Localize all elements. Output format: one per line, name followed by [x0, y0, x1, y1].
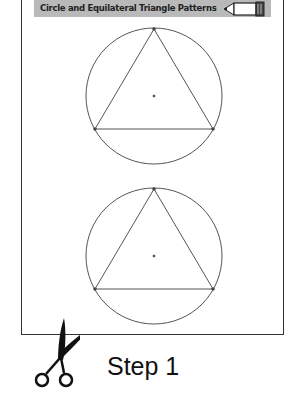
pattern-top — [86, 28, 222, 164]
pattern-bottom — [86, 188, 222, 324]
scissors-icon — [30, 318, 80, 393]
step-label: Step 1 — [107, 352, 179, 381]
